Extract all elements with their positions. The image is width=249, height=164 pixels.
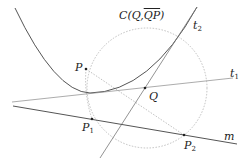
point-p2 [183,134,186,137]
point-p [85,68,88,71]
label-p2: P2 [184,140,196,153]
label-t1: t1 [230,68,239,81]
label-p: P [75,62,82,73]
label-q: Q [149,91,158,102]
circle-c [87,28,207,148]
diagram-canvas [0,0,249,164]
line-m [13,106,237,144]
circle-label: C(Q,QP) [119,10,164,21]
diagram: C(Q,QP) t2 t1 P Q P1 P2 m [0,0,249,164]
label-p1: P1 [82,122,94,135]
line-t1 [12,78,233,102]
line-t2 [100,7,197,158]
label-m: m [224,131,234,142]
point-q [144,87,147,90]
label-t2: t2 [193,20,202,33]
point-p1 [91,118,94,121]
